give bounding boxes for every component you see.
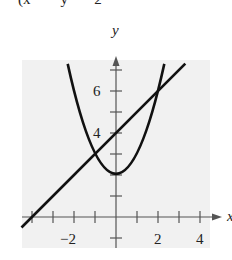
x-tick-label-4: 4	[196, 231, 204, 247]
x-axis-arrow-icon	[212, 214, 222, 221]
x-tick-label-neg2: −2	[60, 231, 76, 247]
x-tick-label-2: 2	[154, 231, 162, 247]
chart-figure: (x y 2	[0, 0, 232, 260]
x-axis-label: x	[226, 208, 232, 224]
y-tick-label-4: 4	[93, 125, 101, 141]
chart-svg: −2 2 4 4 6 y x	[0, 0, 232, 260]
y-tick-label-6: 6	[93, 83, 101, 99]
y-axis-label: y	[110, 22, 119, 38]
